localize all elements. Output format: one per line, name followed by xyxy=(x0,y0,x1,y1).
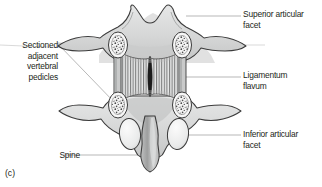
spinous-process xyxy=(141,116,159,172)
cut-pedicle-upper-left xyxy=(109,32,128,58)
label-sectioned-adjacent-vertebral-pedicles: Sectioned adjacent vertebral pedicles xyxy=(6,40,58,82)
ligamentum-flavum xyxy=(120,52,180,101)
label-ligamentum-flavum: Ligamentum flavum xyxy=(243,70,321,91)
upper-vertebral-arch xyxy=(58,5,246,60)
anatomical-figure-panel-c: Superior articular facet Ligamentum flav… xyxy=(0,0,322,187)
panel-letter-c: (c) xyxy=(5,168,15,178)
cut-pedicle-lower-left xyxy=(109,92,128,118)
cut-pedicle-lower-right xyxy=(173,92,192,118)
label-superior-articular-facet: Superior articular facet xyxy=(243,9,321,30)
cut-pedicle-upper-right xyxy=(173,32,192,58)
label-spine: Spine xyxy=(24,150,80,161)
label-inferior-articular-facet: Inferior articular facet xyxy=(243,129,321,150)
